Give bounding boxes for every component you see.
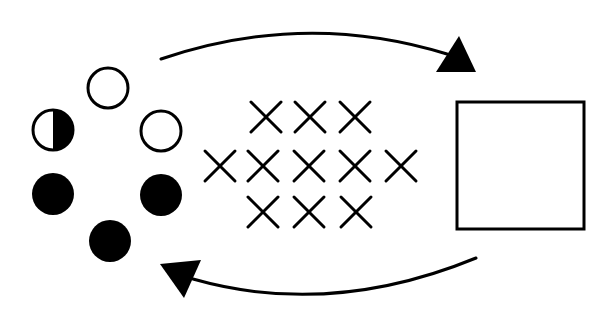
circle-lower-left-solid [32,173,74,215]
cycle-arrows [160,33,476,298]
diagram-canvas [0,0,614,317]
bottom-arrow [160,258,476,298]
cross-mark [248,197,278,227]
circle-lower-right-solid [140,174,182,216]
circle-upper-right-open [141,111,181,151]
cross-mark [205,151,235,181]
top-arrow [161,33,476,72]
circle-group [32,68,182,262]
bottom-arrow-curve [193,258,476,294]
cross-mark [295,102,325,132]
square-group [457,102,584,229]
cycle-diagram [0,0,614,317]
cross-mark [294,151,324,181]
cross-mark [248,151,278,181]
cross-grid [205,102,416,227]
top-arrow-curve [161,33,447,59]
circle-top-open [88,68,128,108]
circle-bottom-solid [89,220,131,262]
cross-mark [340,151,370,181]
cross-mark [251,102,281,132]
cross-mark [386,151,416,181]
circle-upper-left-half-right [33,110,73,150]
cross-mark [340,102,370,132]
cross-mark [341,197,371,227]
cross-mark [294,197,324,227]
square-box [457,102,584,229]
